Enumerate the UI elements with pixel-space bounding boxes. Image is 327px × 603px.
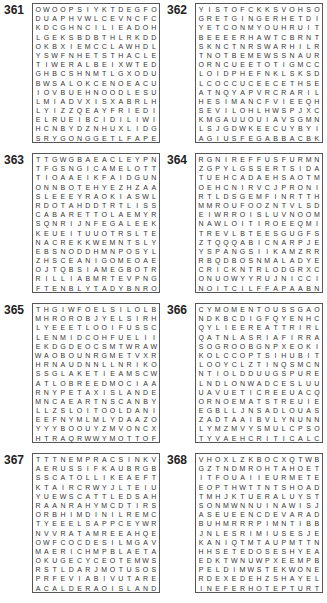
grid-letter: E	[75, 88, 83, 97]
grid-rows: THGIWFOELSILOLBMHROROBJYELSIRHLYEEETLOOI…	[34, 305, 158, 441]
grid-letter: E	[141, 60, 149, 69]
grid-letter: A	[304, 483, 312, 492]
grid-letter: E	[67, 115, 75, 124]
grid-letter: Y	[230, 88, 238, 97]
grid-row: ZGPYLGSSERTSIDA	[197, 164, 321, 173]
grid-letter: S	[230, 192, 238, 201]
grid-row: DUAPHVWLCEVNCFC	[34, 14, 158, 23]
grid-letter: I	[141, 483, 149, 492]
grid-letter: M	[92, 547, 100, 556]
grid-letter: Y	[117, 284, 125, 293]
grid-letter: Z	[263, 574, 271, 583]
grid-letter: T	[247, 229, 255, 238]
grid-letter: G	[100, 351, 108, 360]
grid-letter: T	[247, 483, 255, 492]
grid-letter: E	[230, 323, 238, 332]
grid-letter: P	[280, 538, 288, 547]
grid-row: TIWERALBEIXWTED	[34, 60, 158, 69]
grid-letter: N	[288, 415, 296, 424]
grid-letter: N	[117, 238, 125, 247]
grid-letter: A	[247, 397, 255, 406]
grid-letter: E	[288, 342, 296, 351]
grid-letter: R	[125, 510, 133, 519]
grid-letter: K	[84, 238, 92, 247]
grid-letter: D	[230, 124, 238, 133]
grid-letter: U	[296, 406, 304, 415]
grid-letter: C	[222, 23, 230, 32]
puzzle-number: 366	[167, 303, 187, 317]
grid-letter: T	[255, 538, 263, 547]
grid-letter: R	[313, 247, 321, 256]
grid-letter: Y	[150, 397, 158, 406]
grid-letter: S	[280, 305, 288, 314]
grid-letter: C	[263, 238, 271, 247]
grid-letter: N	[280, 192, 288, 201]
grid-letter: S	[84, 519, 92, 528]
grid-letter: T	[100, 69, 108, 78]
grid-letter: K	[141, 455, 149, 464]
grid-letter: Y	[133, 155, 141, 164]
grid-letter: O	[288, 406, 296, 415]
grid-letter: M	[205, 492, 213, 501]
grid-letter: S	[100, 538, 108, 547]
grid-letter: J	[92, 314, 100, 323]
grid-letter: L	[230, 455, 238, 464]
grid-row: TREVLBTEESGUGFS	[197, 229, 321, 238]
grid-letter: P	[288, 369, 296, 378]
grid-letter: E	[255, 229, 263, 238]
grid-letter: O	[222, 201, 230, 210]
grid-letter: N	[92, 88, 100, 97]
grid-letter: C	[230, 79, 238, 88]
grid-letter: G	[280, 229, 288, 238]
grid-letter: I	[238, 219, 246, 228]
grid-letter: Y	[280, 314, 288, 323]
grid-letter: K	[100, 5, 108, 14]
grid-letter: L	[280, 69, 288, 78]
grid-letter: S	[67, 492, 75, 501]
grid-letter: B	[125, 464, 133, 473]
grid-letter: C	[108, 155, 116, 164]
grid-letter: D	[150, 584, 158, 593]
grid-letter: Y	[92, 501, 100, 510]
grid-letter: N	[247, 510, 255, 519]
grid-letter: P	[197, 565, 205, 574]
grid-letter: M	[214, 424, 222, 433]
grid-letter: Q	[42, 219, 50, 228]
grid-letter: I	[263, 333, 271, 342]
grid-letter: W	[230, 274, 238, 283]
grid-letter: T	[92, 406, 100, 415]
grid-letter: S	[100, 97, 108, 106]
grid-letter: Y	[247, 274, 255, 283]
grid-letter: N	[238, 501, 246, 510]
grid-letter: U	[222, 134, 230, 143]
grid-letter: F	[125, 134, 133, 143]
grid-letter: N	[150, 155, 158, 164]
grid-letter: E	[230, 397, 238, 406]
grid-letter: W	[263, 33, 271, 42]
grid-letter: G	[117, 265, 125, 274]
grid-letter: Y	[296, 492, 304, 501]
grid-letter: A	[51, 483, 59, 492]
grid-letter: D	[280, 265, 288, 274]
grid-letter: R	[51, 434, 59, 443]
grid-letter: G	[255, 134, 263, 143]
grid-letter: G	[117, 69, 125, 78]
grid-letter: Y	[100, 314, 108, 323]
grid-letter: O	[59, 314, 67, 323]
grid-letter: S	[247, 247, 255, 256]
grid-letter: T	[34, 519, 42, 528]
grid-letter: T	[313, 23, 321, 32]
grid-letter: E	[34, 415, 42, 424]
grid-letter: S	[304, 79, 312, 88]
grid-letter: C	[304, 360, 312, 369]
grid-letter: A	[59, 473, 67, 482]
grid-letter: C	[92, 115, 100, 124]
grid-letter: T	[247, 265, 255, 274]
grid-letter: E	[255, 492, 263, 501]
grid-letter: A	[263, 323, 271, 332]
grid-letter: D	[205, 314, 213, 323]
grid-letter: S	[133, 565, 141, 574]
grid-letter: D	[222, 256, 230, 265]
grid-letter: R	[238, 584, 246, 593]
grid-letter: Y	[205, 323, 213, 332]
